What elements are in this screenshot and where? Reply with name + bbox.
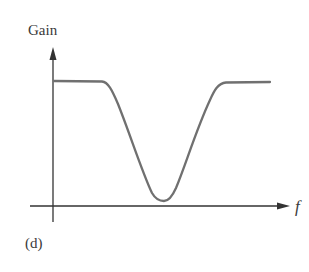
y-axis-arrowhead: [50, 47, 57, 60]
x-axis-label: f: [295, 197, 300, 217]
y-axis-label: Gain: [28, 22, 57, 39]
notch-response-curve: [54, 81, 270, 201]
x-axis-arrowhead: [277, 203, 290, 210]
panel-label: (d): [25, 235, 43, 252]
gain-plot: [0, 0, 309, 272]
